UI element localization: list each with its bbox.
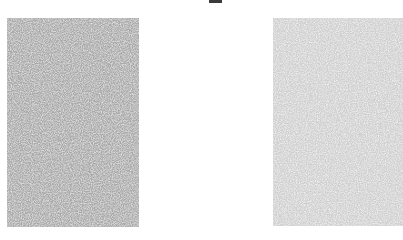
top-center-mark [209, 0, 222, 3]
left-noise-panel [7, 18, 139, 227]
right-panel-fill [273, 18, 403, 226]
right-noise-panel [273, 18, 403, 226]
left-panel-fill [7, 18, 139, 227]
noise-texture-right [273, 18, 403, 226]
noise-texture-left [7, 18, 139, 227]
